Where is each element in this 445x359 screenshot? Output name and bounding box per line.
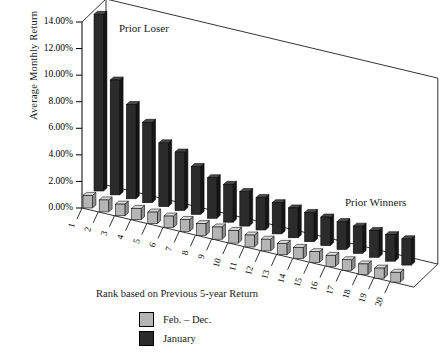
x-tick-label: 16 bbox=[308, 280, 320, 292]
bar bbox=[294, 244, 307, 258]
legend-item-feb-dec: Feb. – Dec. bbox=[139, 310, 211, 329]
bar bbox=[148, 209, 161, 224]
x-tick-label: 9 bbox=[196, 253, 207, 260]
bar bbox=[213, 224, 226, 239]
bar bbox=[99, 197, 112, 212]
bar bbox=[115, 201, 128, 216]
bar bbox=[391, 269, 404, 282]
x-tick-label: 18 bbox=[340, 288, 352, 300]
x-tick-label: 3 bbox=[99, 229, 110, 236]
bar bbox=[402, 236, 415, 265]
bar bbox=[272, 200, 285, 234]
x-tick-label: 4 bbox=[115, 233, 126, 240]
bar bbox=[245, 232, 258, 247]
y-tick-label: 8.00% bbox=[48, 96, 73, 106]
bar bbox=[358, 261, 371, 274]
legend-swatch-january bbox=[139, 331, 154, 346]
x-tick-label: 10 bbox=[211, 257, 223, 269]
bar bbox=[94, 11, 107, 191]
legend-item-january: January bbox=[139, 329, 211, 348]
bar bbox=[277, 240, 290, 254]
x-tick-label: 7 bbox=[163, 245, 174, 252]
y-tick-label: 2.00% bbox=[48, 176, 73, 186]
legend-label-feb-dec: Feb. – Dec. bbox=[163, 314, 211, 325]
bar bbox=[175, 149, 188, 210]
bar bbox=[207, 175, 220, 219]
y-axis-title: Average Monthly Return bbox=[28, 0, 39, 146]
x-tick-label: 5 bbox=[131, 237, 142, 244]
bar bbox=[132, 205, 145, 219]
bar bbox=[229, 227, 242, 243]
bar bbox=[256, 194, 269, 230]
y-tick-label: 12.00% bbox=[44, 43, 73, 53]
bar bbox=[164, 213, 177, 227]
bar bbox=[386, 232, 399, 262]
bar bbox=[143, 119, 156, 202]
y-tick-label: 14.00% bbox=[44, 16, 73, 26]
bar bbox=[83, 192, 96, 208]
bar bbox=[305, 209, 318, 241]
y-tick-label: 10.00% bbox=[44, 69, 73, 79]
bar bbox=[196, 221, 209, 236]
y-tick-label: 0.00% bbox=[48, 202, 73, 212]
bar bbox=[326, 252, 339, 266]
legend-swatch-feb-dec bbox=[139, 312, 154, 327]
bar bbox=[310, 249, 323, 263]
chart-figure: 0.00%2.00%4.00%6.00%8.00%10.00%12.00%14.… bbox=[0, 0, 445, 359]
bar bbox=[288, 205, 301, 238]
x-tick-label: 13 bbox=[259, 268, 271, 280]
x-tick-label: 19 bbox=[357, 292, 369, 304]
y-axis: 0.00%2.00%4.00%6.00%8.00%10.00%12.00%14.… bbox=[44, 16, 82, 212]
x-tick-label: 14 bbox=[276, 272, 288, 284]
x-tick-label: 1 bbox=[66, 222, 77, 229]
bar bbox=[369, 227, 382, 257]
bar bbox=[353, 223, 366, 253]
x-axis-title: Rank based on Previous 5-year Return bbox=[62, 288, 292, 299]
bar bbox=[180, 216, 193, 231]
y-tick-label: 4.00% bbox=[48, 149, 73, 159]
x-tick-label: 2 bbox=[82, 226, 93, 233]
x-tick-label: 15 bbox=[292, 276, 304, 288]
chart-canvas: 0.00%2.00%4.00%6.00%8.00%10.00%12.00%14.… bbox=[0, 0, 445, 359]
bar bbox=[375, 265, 388, 278]
bar bbox=[159, 140, 172, 207]
annotation-prior-winners: Prior Winners bbox=[345, 196, 406, 208]
x-tick-label: 12 bbox=[243, 265, 255, 276]
chart-legend: Feb. – Dec. January bbox=[139, 310, 211, 348]
bar bbox=[240, 189, 253, 227]
bar bbox=[321, 214, 334, 246]
bar bbox=[342, 257, 355, 271]
bar bbox=[110, 77, 123, 195]
x-tick-label: 20 bbox=[373, 296, 385, 308]
bar bbox=[337, 219, 350, 250]
legend-label-january: January bbox=[163, 333, 196, 344]
annotation-prior-loser: Prior Loser bbox=[119, 22, 169, 34]
bar bbox=[126, 101, 139, 198]
x-tick-label: 11 bbox=[227, 261, 239, 272]
bar bbox=[261, 236, 274, 251]
bar bbox=[191, 164, 204, 215]
x-tick-label: 17 bbox=[324, 284, 336, 296]
bar bbox=[224, 181, 237, 222]
x-tick-label: 6 bbox=[147, 241, 158, 248]
x-tick-label: 8 bbox=[180, 249, 191, 256]
y-tick-label: 6.00% bbox=[48, 122, 73, 132]
